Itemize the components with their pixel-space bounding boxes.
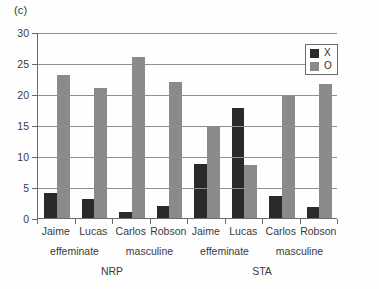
chart-legend: X O bbox=[305, 44, 338, 75]
bar-o bbox=[132, 57, 145, 218]
y-tick-label: 20 bbox=[3, 89, 29, 101]
x-tick-label: Robson bbox=[150, 225, 186, 237]
y-tick-mark bbox=[32, 95, 37, 96]
x-tick-mark bbox=[150, 219, 151, 224]
x-group-label: STA bbox=[252, 265, 272, 277]
y-tick-mark bbox=[32, 157, 37, 158]
x-tick-label: Carlos bbox=[266, 225, 296, 237]
y-tick-label: 5 bbox=[3, 182, 29, 194]
gridline bbox=[38, 95, 337, 96]
legend-swatch-x-icon bbox=[310, 49, 319, 58]
bar-x bbox=[44, 193, 57, 218]
x-group-sublabel: effeminate bbox=[200, 245, 249, 257]
x-group-sublabel: masculine bbox=[276, 245, 323, 257]
plot-area bbox=[37, 33, 337, 219]
gridline bbox=[38, 188, 337, 189]
x-tick-label: Lucas bbox=[229, 225, 257, 237]
y-tick-label: 30 bbox=[3, 27, 29, 39]
bar-x bbox=[269, 196, 282, 218]
chart-figure: (c) 051015202530 JaimeLucasCarlosRobsonJ… bbox=[0, 0, 379, 289]
x-tick-label: Jaime bbox=[192, 225, 220, 237]
x-tick-mark bbox=[112, 219, 113, 224]
bar-o bbox=[169, 82, 182, 218]
y-tick-label: 0 bbox=[3, 213, 29, 225]
gridline bbox=[38, 157, 337, 158]
x-axis: JaimeLucasCarlosRobsonJaimeLucasCarlosRo… bbox=[37, 219, 337, 287]
gridline bbox=[38, 64, 337, 65]
x-tick-label: Jaime bbox=[42, 225, 70, 237]
x-group-label: NRP bbox=[101, 265, 123, 277]
x-tick-mark bbox=[187, 219, 188, 224]
bar-x bbox=[307, 207, 320, 218]
bar-o bbox=[57, 75, 70, 218]
panel-label: (c) bbox=[14, 4, 27, 16]
legend-label-x: X bbox=[324, 48, 331, 58]
x-tick-mark bbox=[300, 219, 301, 224]
x-group-sublabel: effeminate bbox=[50, 245, 99, 257]
y-tick-mark bbox=[32, 126, 37, 127]
x-tick-label: Lucas bbox=[79, 225, 107, 237]
x-group-sublabel: masculine bbox=[126, 245, 173, 257]
x-tick-mark bbox=[225, 219, 226, 224]
bar-x bbox=[119, 212, 132, 218]
y-tick-label: 15 bbox=[3, 120, 29, 132]
x-tick-label: Robson bbox=[300, 225, 336, 237]
gridline bbox=[38, 126, 337, 127]
bar-o bbox=[319, 84, 332, 218]
y-tick-mark bbox=[32, 64, 37, 65]
y-tick-mark bbox=[32, 188, 37, 189]
bar-x bbox=[194, 164, 207, 218]
x-tick-mark bbox=[337, 219, 338, 224]
bar-o bbox=[207, 126, 220, 218]
legend-item-o: O bbox=[310, 61, 332, 71]
bar-o bbox=[244, 165, 257, 218]
bar-x bbox=[157, 206, 170, 218]
legend-label-o: O bbox=[324, 61, 332, 71]
bar-o bbox=[94, 88, 107, 218]
bar-x bbox=[232, 108, 245, 218]
legend-swatch-o-icon bbox=[310, 62, 319, 71]
y-tick-label: 25 bbox=[3, 58, 29, 70]
x-tick-mark bbox=[37, 219, 38, 224]
x-tick-mark bbox=[262, 219, 263, 224]
legend-item-x: X bbox=[310, 48, 332, 58]
gridline bbox=[38, 33, 337, 34]
x-tick-mark bbox=[75, 219, 76, 224]
x-tick-label: Carlos bbox=[116, 225, 146, 237]
bar-x bbox=[82, 199, 95, 218]
y-tick-mark bbox=[32, 33, 37, 34]
y-tick-label: 10 bbox=[3, 151, 29, 163]
